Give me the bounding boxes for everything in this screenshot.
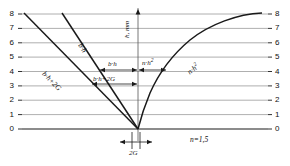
dim-label-2G: 2G: [129, 150, 138, 157]
note-label-n: n=1,5: [190, 136, 208, 143]
left-tick-3: 3: [2, 82, 14, 90]
curve-b-h-2G: [24, 13, 138, 129]
left-tick-1: 1: [2, 111, 14, 119]
right-tick-6: 6: [275, 39, 287, 47]
right-tick-1: 1: [275, 111, 287, 119]
left-tick-4: 4: [2, 68, 14, 76]
right-tick-5: 5: [275, 53, 287, 61]
dim-label-b-h: b·h: [108, 61, 117, 68]
vertical-axis-arrow: [136, 9, 141, 15]
chart-plot-area: [0, 0, 290, 166]
dimension-2G: [120, 132, 152, 149]
left-tick-6: 6: [2, 39, 14, 47]
dim-label-n-h2: n·h2: [142, 60, 154, 67]
right-tick-8: 8: [275, 10, 287, 18]
left-tick-7: 7: [2, 24, 14, 32]
right-tick-marks: [268, 14, 272, 129]
right-tick-7: 7: [275, 24, 287, 32]
left-tick-marks: [18, 14, 22, 129]
chart-container: 8 7 6 5 4 3 2 1 0 8 7 6 5 4 3 2 1 0 h, m…: [0, 0, 290, 166]
right-tick-4: 4: [275, 68, 287, 76]
left-tick-2: 2: [2, 96, 14, 104]
right-tick-2: 2: [275, 96, 287, 104]
right-tick-3: 3: [275, 82, 287, 90]
dim-label-b-h-2G: b·h+2G: [93, 76, 115, 83]
curve-n-h2: [138, 13, 262, 129]
left-tick-5: 5: [2, 53, 14, 61]
left-tick-8: 8: [2, 10, 14, 18]
right-tick-0: 0: [275, 125, 287, 133]
vertical-axis-label: h, mm: [124, 21, 131, 38]
left-tick-0: 0: [2, 125, 14, 133]
